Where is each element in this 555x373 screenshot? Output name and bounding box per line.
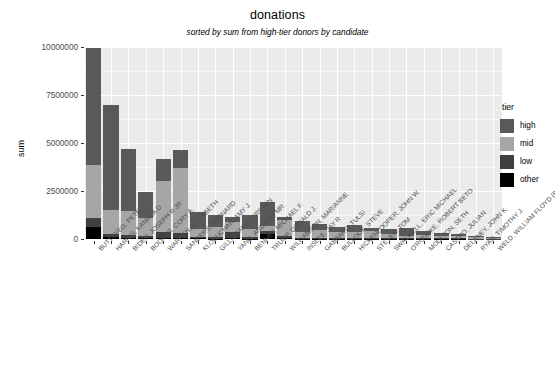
legend-title: tier — [502, 102, 555, 112]
legend: tier highmidlowother — [500, 102, 555, 189]
bar-segment-high[interactable] — [86, 48, 101, 165]
x-tick-label: DELANEY, JOHN K. — [462, 247, 467, 252]
bar-stack[interactable] — [86, 48, 101, 239]
x-tick-label: STEYER, TOM — [375, 247, 380, 252]
y-tick-mark — [81, 47, 84, 48]
legend-label: high — [520, 121, 535, 130]
legend-key — [500, 155, 514, 169]
y-tick-label: 2500000 — [8, 187, 78, 196]
bar-segment-low[interactable] — [86, 218, 101, 227]
x-tick-label: MOULTON, SETH — [427, 247, 432, 252]
x-tick-label: HICKENLOOPER, JOHN W. — [357, 247, 362, 252]
y-tick-mark — [81, 143, 84, 144]
legend-key — [500, 119, 514, 133]
bar-segment-high[interactable] — [156, 159, 171, 181]
legend-item-mid[interactable]: mid — [500, 135, 555, 152]
x-tick-label: WELD, WILLIAM FLOYD (BILL) — [496, 247, 501, 252]
bar-stack[interactable] — [103, 105, 118, 239]
x-tick-label: TRUMP, DONALD J. — [270, 247, 275, 252]
x-tick-label: SANDERS, BERNARD — [184, 247, 189, 252]
legend-item-other[interactable]: other — [500, 171, 555, 188]
legend-swatch-high — [500, 119, 514, 133]
bar-segment-high[interactable] — [173, 150, 188, 168]
legend-label: mid — [520, 139, 533, 148]
x-tick-label: GABBARD, TULSI — [323, 247, 328, 252]
x-tick-label: CASTRO, JULIAN — [444, 247, 449, 252]
x-tick-label: O'ROURKE, ROBERT BETO — [409, 247, 414, 252]
chart-root: donations sorted by sum from high-tier d… — [0, 0, 555, 373]
x-tick-label: HARRIS, KAMALA D — [114, 247, 119, 252]
x-tick-label: WILLIAMSON, MARIANNE — [288, 247, 293, 252]
x-tick-label: BUTTIGIEG, PETE — [97, 247, 102, 252]
x-tick-label: BENNET, MICHAEL F. — [253, 247, 258, 252]
x-tick-label: SWALWELL, ERIC MICHAEL — [392, 247, 397, 252]
x-tick-label: YANG, ANDREW MR. — [236, 247, 241, 252]
legend-swatch-other — [500, 173, 514, 187]
legend-item-high[interactable]: high — [500, 117, 555, 134]
legend-key — [500, 173, 514, 187]
x-tick-label: INSLEE, JAY R — [305, 247, 310, 252]
x-tick-label: BOOKER, CORY A. — [149, 247, 154, 252]
y-tick-mark — [81, 239, 84, 240]
bar-segment-high[interactable] — [121, 149, 136, 211]
legend-key — [500, 137, 514, 151]
chart-title: donations — [0, 8, 555, 22]
y-tick-label: 5000000 — [8, 139, 78, 148]
y-tick-mark — [81, 95, 84, 96]
y-tick-label: 7500000 — [8, 91, 78, 100]
legend-item-low[interactable]: low — [500, 153, 555, 170]
legend-rows: highmidlowother — [500, 117, 555, 188]
x-tick-label: GILLIBRAND, KIRSTEN — [218, 247, 223, 252]
legend-label: other — [520, 175, 539, 184]
legend-swatch-low — [500, 155, 514, 169]
x-tick-label: BULLOCK, STEVE — [340, 247, 345, 252]
bar-segment-other[interactable] — [86, 227, 101, 239]
chart-subtitle: sorted by sum from high-tier donors by c… — [0, 27, 555, 37]
bar-segment-mid[interactable] — [86, 165, 101, 218]
y-tick-mark — [81, 191, 84, 192]
x-tick-label: WARREN, ELIZABETH — [166, 247, 171, 252]
y-tick-label: 0 — [8, 235, 78, 244]
legend-swatch-mid — [500, 137, 514, 151]
x-tick-label: RYAN, TIMOTHY J. — [479, 247, 484, 252]
y-tick-label: 10000000 — [8, 43, 78, 52]
bar-segment-high[interactable] — [103, 105, 118, 210]
legend-label: low — [520, 157, 532, 166]
x-tick-mark — [94, 241, 95, 244]
x-tick-label: BIDEN, JOSEPH R JR — [131, 247, 136, 252]
x-tick-label: KLOBUCHAR, AMY J. — [201, 247, 206, 252]
